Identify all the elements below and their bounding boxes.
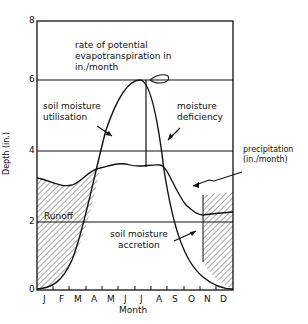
month-jul: J	[140, 294, 143, 304]
pet-label-1: rate of potential	[75, 40, 148, 51]
month-dec: D	[220, 294, 227, 304]
ytick-2: 2	[29, 216, 35, 226]
month-nov: N	[204, 294, 211, 304]
ytick-8: 8	[29, 15, 35, 25]
month-mar: M	[74, 294, 82, 304]
pet-label-2: evapotranspiration in	[75, 51, 171, 62]
month-apr: A	[91, 294, 97, 304]
month-may: M	[107, 294, 115, 304]
ytick-0: 0	[29, 284, 35, 294]
utilisation-label-2: utilisation	[43, 112, 87, 123]
ytick-6: 6	[29, 74, 35, 84]
runoff-label: Runoff	[44, 211, 73, 222]
month-jun: J	[124, 294, 127, 304]
accretion-hatch	[203, 192, 233, 289]
accretion-label-1: soil moisture	[110, 229, 168, 240]
pet-label-3: in./month	[75, 62, 118, 73]
y-axis-label: Depth (in.)	[2, 132, 11, 175]
pet-pointer-loop	[150, 75, 169, 83]
month-oct: O	[188, 294, 195, 304]
ytick-4: 4	[29, 145, 35, 155]
accretion-label-2: accretion	[118, 240, 160, 251]
month-feb: F	[59, 294, 64, 304]
month-aug: A	[156, 294, 162, 304]
utilisation-label-1: soil moisture	[43, 101, 101, 112]
precipitation-label-2: (in./month)	[243, 154, 288, 165]
deficiency-label-2: deficiency	[177, 112, 223, 123]
x-axis-label: Month	[119, 305, 147, 316]
precipitation-arrow	[193, 172, 242, 186]
month-sep: S	[172, 294, 178, 304]
deficiency-label-1: moisture	[177, 101, 217, 112]
month-jan: J	[43, 294, 46, 304]
